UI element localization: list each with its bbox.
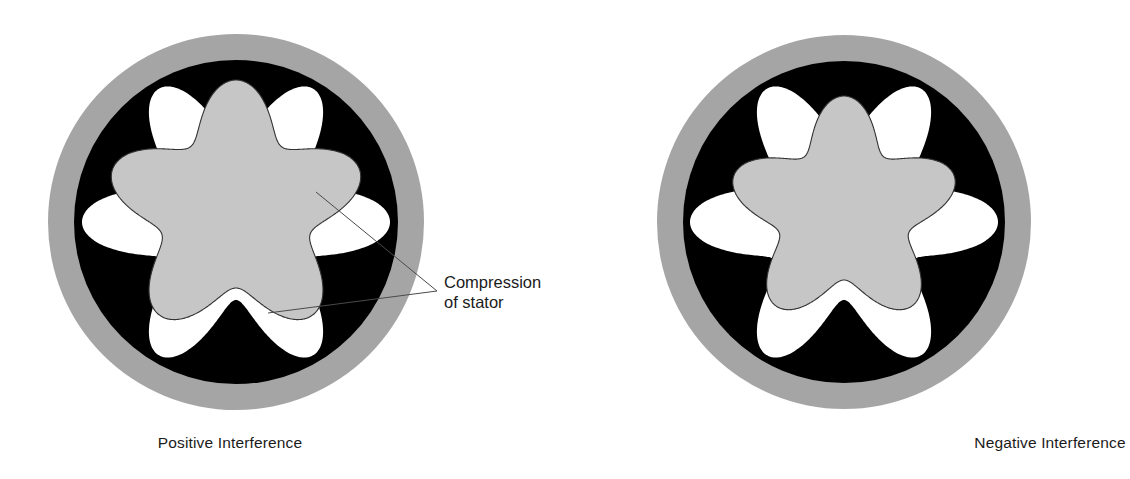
callout-text-line-1: Compression bbox=[444, 272, 541, 292]
panel-positive-interference: Positive Interference bbox=[0, 0, 540, 479]
panel-negative-interference: Negative Interference bbox=[600, 0, 1073, 479]
positive-interference-diagram bbox=[0, 0, 540, 430]
negative-interference-diagram bbox=[600, 0, 1073, 430]
caption-negative-interference: Negative Interference bbox=[820, 434, 1130, 452]
callout-compression-of-stator: Compression of stator bbox=[444, 272, 541, 312]
caption-positive-interference: Positive Interference bbox=[0, 434, 460, 452]
callout-text-line-2: of stator bbox=[444, 292, 541, 312]
